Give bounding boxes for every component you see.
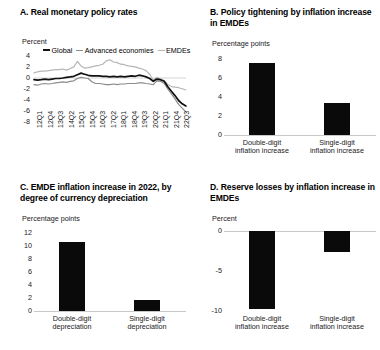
panel-a-xtick-6: 16Q3 <box>99 111 106 128</box>
panel-a-xtick-11: 20Q2 <box>152 111 159 128</box>
panel-c-xcat-single-digit-line2: depreciation <box>115 323 179 331</box>
legend-item-global: Global <box>43 47 72 55</box>
panel-a-xtick-12: 21Q1 <box>162 111 169 128</box>
panel-b-ytick-0: 0 <box>206 131 222 139</box>
panel-a-xtick-8: 18Q1 <box>120 111 127 128</box>
panel-a-y-axis-unit: Percent <box>22 38 47 46</box>
legend-item-advanced-economies: Advanced economies <box>76 47 153 55</box>
panel-a-ytick-neg4: -4 <box>16 96 30 104</box>
legend-item-emdes: EMDEs <box>158 47 191 55</box>
panel-a-ytick-neg6: -6 <box>16 107 30 115</box>
panel-a-ytick-4: 4 <box>16 52 30 60</box>
panel-a-ytick-neg8: -8 <box>16 118 30 126</box>
panel-c-baseline <box>34 311 186 312</box>
panel-b-ytick-4: 4 <box>206 93 222 101</box>
legend-label-emdes: EMDEs <box>166 46 190 55</box>
panel-b-xcat-single-digit-line2: inflation increase <box>305 147 369 155</box>
panel-a-title: A. Real monetary policy rates <box>20 7 188 18</box>
panel-a-legend: GlobalAdvanced economiesEMDEs <box>43 47 190 55</box>
panel-a-ytick-2: 2 <box>16 63 30 71</box>
panel-c-xcat-single-digit: Single-digit depreciation <box>115 315 179 332</box>
four-panel-figure: A. Real monetary policy rates Percent Gl… <box>0 0 380 350</box>
panel-a-line-emdes <box>34 60 186 90</box>
panel-d-ytick-0: 0 <box>204 227 222 235</box>
panel-d-ytick-neg10: -10 <box>204 307 222 315</box>
panel-d-title: D. Reserve losses by inflation increase … <box>210 182 378 204</box>
panel-d-xcat-single-digit-line2: inflation increase <box>305 323 369 331</box>
panel-b-xcat-double-digit: Double-digit inflation increase <box>230 139 294 156</box>
panel-c-ytick-10: 10 <box>14 242 32 250</box>
panel-a-xtick-3: 14Q2 <box>68 111 75 128</box>
panel-a-xtick-1: 12Q4 <box>47 111 54 128</box>
panel-a-xtick-2: 13Q3 <box>57 111 64 128</box>
panel-c-bar-double-digit <box>59 242 85 311</box>
panel-b-ytick-8: 8 <box>206 55 222 63</box>
panel-a-xtick-4: 15Q1 <box>78 111 85 128</box>
panel-d-xcat-single-digit: Single-digit inflation increase <box>305 315 369 332</box>
legend-label-advanced-economies: Advanced economies <box>85 46 154 55</box>
panel-b-title: B. Policy tightening by inflation increa… <box>210 7 378 29</box>
panel-b-xcat-single-digit: Single-digit inflation increase <box>305 139 369 156</box>
panel-c-ytick-4: 4 <box>14 281 32 289</box>
panel-a-line-advanced-economies <box>34 77 186 112</box>
panel-d-bar-single-digit <box>324 231 350 252</box>
panel-b-bar-single-digit <box>324 103 350 135</box>
panel-c-ytick-12: 12 <box>14 229 32 237</box>
panel-c-ytick-8: 8 <box>14 255 32 263</box>
panel-b-policy-tightening: B. Policy tightening by inflation increa… <box>190 0 380 175</box>
panel-a-xtick-13: 21Q4 <box>173 111 180 128</box>
panel-c-ytick-6: 6 <box>14 268 32 276</box>
panel-c-y-axis-unit: Percentage points <box>22 215 80 223</box>
panel-a-xtick-10: 19Q3 <box>141 111 148 128</box>
panel-c-xcat-double-digit-line2: depreciation <box>40 323 104 331</box>
panel-b-bar-double-digit <box>249 63 275 135</box>
panel-c-ytick-0: 0 <box>14 307 32 315</box>
panel-a-ytick-0: 0 <box>16 74 30 82</box>
panel-b-xcat-double-digit-line2: inflation increase <box>230 147 294 155</box>
panel-d-reserve-losses: D. Reserve losses by inflation increase … <box>190 175 380 350</box>
legend-swatch-emdes-icon <box>158 50 165 51</box>
panel-a-ytick-neg2: -2 <box>16 85 30 93</box>
panel-b-ytick-2: 2 <box>206 112 222 120</box>
panel-d-ytick-neg5: -5 <box>204 267 222 275</box>
panel-c-ytick-2: 2 <box>14 294 32 302</box>
panel-c-title: C. EMDE inflation increase in 2022, by d… <box>20 182 188 204</box>
panel-a-xtick-7: 17Q2 <box>110 111 117 128</box>
panel-a-xtick-9: 18Q4 <box>131 111 138 128</box>
panel-a-xtick-5: 15Q4 <box>89 111 96 128</box>
panel-d-bar-double-digit <box>249 231 275 309</box>
panel-d-y-axis-unit: Percent <box>212 215 237 223</box>
panel-c-xcat-double-digit: Double-digit depreciation <box>40 315 104 332</box>
legend-label-global: Global <box>52 46 73 55</box>
panel-a-xtick-14: 22Q3 <box>183 111 190 128</box>
panel-c-emde-inflation-increase: C. EMDE inflation increase in 2022, by d… <box>0 175 190 350</box>
panel-a-real-monetary-policy-rates: A. Real monetary policy rates Percent Gl… <box>0 0 190 175</box>
legend-swatch-global-icon <box>43 49 50 51</box>
panel-d-xcat-double-digit-line2: inflation increase <box>230 323 294 331</box>
panel-d-baseline <box>224 231 376 232</box>
panel-b-y-axis-unit: Percentage points <box>212 40 270 48</box>
panel-c-bar-single-digit <box>134 300 160 311</box>
panel-d-xcat-double-digit: Double-digit inflation increase <box>230 315 294 332</box>
panel-a-xtick-0: 12Q1 <box>36 111 43 128</box>
legend-swatch-advanced-economies-icon <box>76 50 83 51</box>
panel-b-ytick-6: 6 <box>206 74 222 82</box>
panel-b-baseline <box>224 135 376 136</box>
